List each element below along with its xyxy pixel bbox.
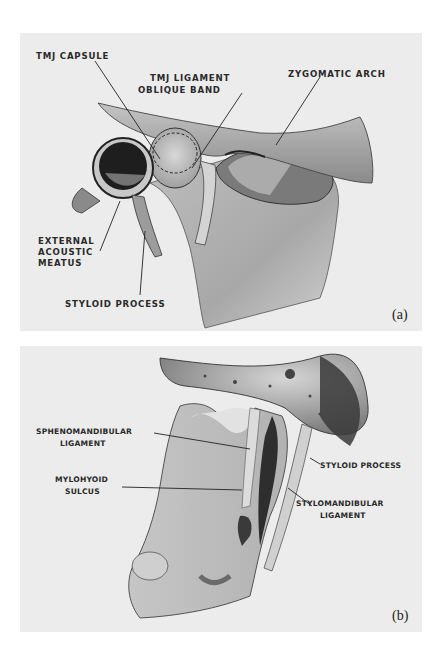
label-sphenomandibular-line2: LIGAMENT bbox=[60, 438, 106, 449]
label-tmj-ligament-line1: TMJ LIGAMENT bbox=[150, 73, 230, 84]
label-external-acoustic-line1: EXTERNAL bbox=[38, 236, 95, 247]
label-mylohyoid-line1: MYLOHYOID bbox=[55, 474, 108, 485]
label-styloid-process-a: STYLOID PROCESS bbox=[65, 299, 165, 310]
panel-tag-b: (b) bbox=[392, 608, 408, 624]
label-stylomandibular-line2: LIGAMENT bbox=[320, 510, 366, 521]
panel-a-lateral-tmj: TMJ CAPSULE TMJ LIGAMENT OBLIQUE BAND ZY… bbox=[20, 33, 422, 331]
label-sphenomandibular-line1: SPHENOMANDIBULAR bbox=[36, 426, 132, 437]
label-external-acoustic-line2: ACOUSTIC bbox=[38, 247, 93, 258]
label-mylohyoid-line2: SULCUS bbox=[65, 486, 100, 497]
panel-tag-a: (a) bbox=[392, 307, 408, 323]
label-tmj-capsule: TMJ CAPSULE bbox=[36, 51, 109, 62]
label-stylomandibular-line1: STYLOMANDIBULAR bbox=[296, 498, 384, 509]
label-zygomatic-arch: ZYGOMATIC ARCH bbox=[288, 69, 386, 80]
label-styloid-process-b: STYLOID PROCESS bbox=[320, 460, 401, 471]
panel-b-medial-ligaments: SPHENOMANDIBULAR LIGAMENT MYLOHYOID SULC… bbox=[20, 346, 422, 632]
label-tmj-ligament-line2: OBLIQUE BAND bbox=[138, 85, 221, 96]
label-external-acoustic-line3: MEATUS bbox=[38, 258, 82, 269]
